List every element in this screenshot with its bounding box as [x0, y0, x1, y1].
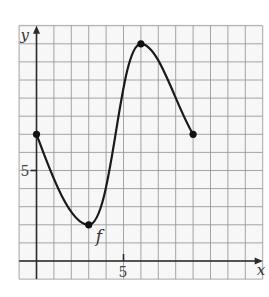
x-tick-label: 5 [119, 264, 128, 280]
curve-point [85, 221, 92, 228]
x-axis-label: x [257, 261, 266, 279]
curve-point [190, 131, 197, 138]
curve-point [33, 131, 40, 138]
y-axis-label: y [20, 26, 30, 44]
y-tick-label: 5 [21, 163, 30, 179]
function-graph: x y 5 5 f [0, 0, 269, 297]
curve-point [137, 40, 144, 47]
